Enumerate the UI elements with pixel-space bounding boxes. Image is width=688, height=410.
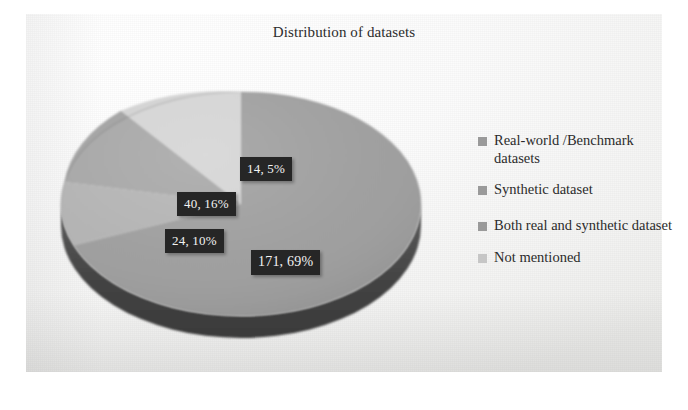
legend-item-not-mentioned[interactable]: Not mentioned — [478, 249, 678, 267]
chart-legend: Real-world /Benchmark datasets Synthetic… — [478, 132, 678, 280]
pie-chart: 14, 5% 40, 16% 24, 10% 171, 69% — [55, 54, 425, 354]
data-label-both: 24, 10% — [165, 229, 224, 253]
legend-label: Both real and synthetic dataset — [494, 217, 672, 235]
legend-label: Synthetic dataset — [494, 181, 593, 199]
data-label-not-mentioned: 14, 5% — [240, 157, 292, 181]
legend-label: Real-world /Benchmark datasets — [494, 132, 676, 167]
legend-item-synthetic[interactable]: Synthetic dataset — [478, 181, 678, 199]
chart-title: Distribution of datasets — [26, 24, 662, 41]
legend-swatch-icon — [478, 254, 487, 263]
pie-svg — [55, 54, 425, 354]
legend-item-real-world[interactable]: Real-world /Benchmark datasets — [478, 132, 678, 167]
pie-sheen — [61, 92, 421, 316]
pie-slices — [61, 91, 421, 316]
figure-plate: Distribution of datasets — [26, 14, 662, 372]
data-label-synthetic: 40, 16% — [177, 192, 236, 216]
data-label-real-world: 171, 69% — [251, 250, 320, 275]
legend-swatch-icon — [478, 137, 487, 146]
legend-item-both[interactable]: Both real and synthetic dataset — [478, 217, 678, 235]
legend-swatch-icon — [478, 186, 487, 195]
legend-label: Not mentioned — [494, 249, 581, 267]
legend-swatch-icon — [478, 222, 487, 231]
